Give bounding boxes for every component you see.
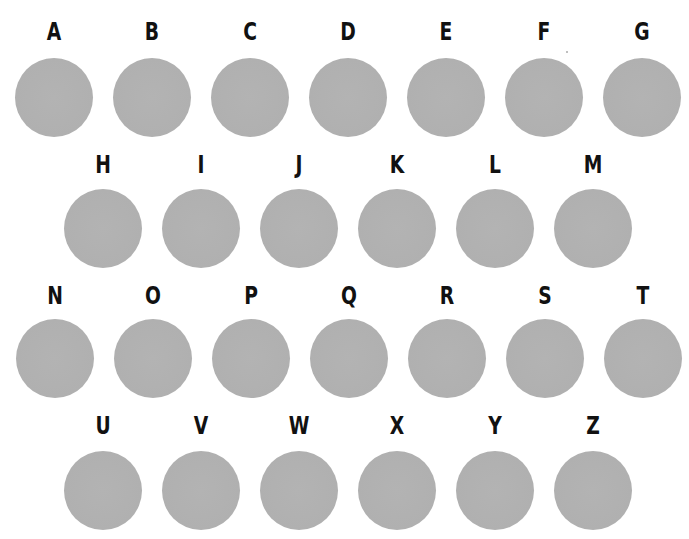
gray-circle (603, 58, 681, 137)
gray-circle (212, 319, 290, 398)
letter-label: Z (562, 413, 624, 439)
letter-label: D (317, 19, 379, 45)
letter-label: O (122, 283, 184, 309)
gray-circle (211, 58, 289, 137)
letter-label: Y (464, 413, 526, 439)
gray-circle (604, 319, 682, 398)
letter-label: W (268, 413, 330, 439)
gray-circle (456, 189, 534, 268)
letter-label: C (219, 19, 281, 45)
letter-label: E (415, 19, 477, 45)
letter-label: J (268, 152, 330, 178)
letter-label: Q (318, 283, 380, 309)
gray-circle (309, 58, 387, 137)
gray-circle (260, 451, 338, 530)
letter-label: R (416, 283, 478, 309)
gray-circle (505, 58, 583, 137)
gray-circle (16, 319, 94, 398)
stray-dot (566, 51, 568, 53)
letter-label: X (366, 413, 428, 439)
letter-label: M (562, 152, 624, 178)
gray-circle (64, 189, 142, 268)
letter-label: H (72, 152, 134, 178)
letter-label: P (220, 283, 282, 309)
gray-circle (162, 451, 240, 530)
letter-label: K (366, 152, 428, 178)
gray-circle (113, 58, 191, 137)
gray-circle (554, 189, 632, 268)
gray-circle (358, 451, 436, 530)
gray-circle (554, 451, 632, 530)
letter-label: A (23, 19, 85, 45)
letter-label: G (611, 19, 673, 45)
gray-circle (162, 189, 240, 268)
letter-label: U (72, 413, 134, 439)
gray-circle (407, 58, 485, 137)
gray-circle (408, 319, 486, 398)
gray-circle (64, 451, 142, 530)
letter-label: L (464, 152, 526, 178)
gray-circle (310, 319, 388, 398)
letter-label: F (513, 19, 575, 45)
letter-label: S (514, 283, 576, 309)
letter-label: T (612, 283, 674, 309)
gray-circle (114, 319, 192, 398)
letter-label: N (24, 283, 86, 309)
gray-circle (456, 451, 534, 530)
gray-circle (15, 58, 93, 137)
gray-circle (506, 319, 584, 398)
letter-label: I (170, 152, 232, 178)
letter-label: V (170, 413, 232, 439)
gray-circle (260, 189, 338, 268)
gray-circle (358, 189, 436, 268)
letter-label: B (121, 19, 183, 45)
